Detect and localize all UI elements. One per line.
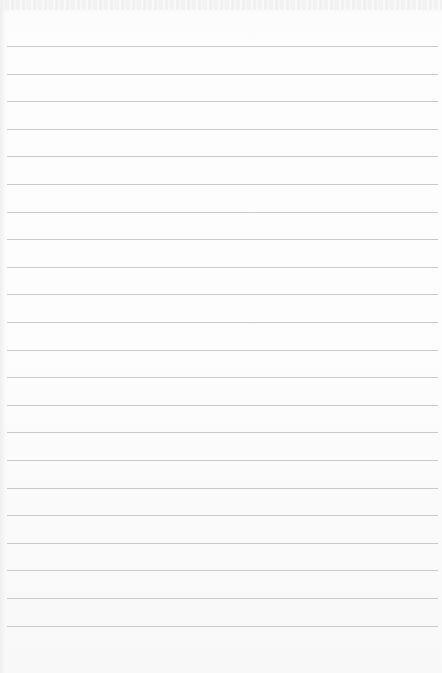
ruled-line (7, 626, 438, 627)
ruled-line (7, 350, 438, 351)
ruled-line (7, 460, 438, 461)
ruled-line (7, 405, 438, 406)
paper-top-texture (0, 0, 442, 10)
paper-left-edge (0, 0, 6, 673)
ruled-line (7, 212, 438, 213)
ruled-line (7, 432, 438, 433)
ruled-line (7, 543, 438, 544)
ruled-line (7, 377, 438, 378)
ruled-line (7, 156, 438, 157)
ruled-line (7, 570, 438, 571)
ruled-line (7, 101, 438, 102)
ruled-line (7, 515, 438, 516)
ruled-line (7, 184, 438, 185)
ruled-line (7, 294, 438, 295)
ruled-line (7, 239, 438, 240)
ruled-line (7, 46, 438, 47)
ruled-line (7, 74, 438, 75)
ruled-line (7, 322, 438, 323)
ruled-line (7, 598, 438, 599)
ruled-line (7, 129, 438, 130)
ruled-line (7, 267, 438, 268)
ruled-line (7, 488, 438, 489)
lined-paper-page (0, 0, 442, 673)
